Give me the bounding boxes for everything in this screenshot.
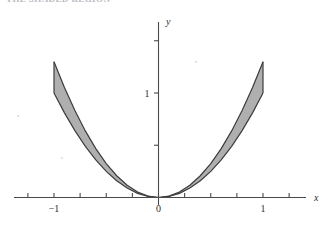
y-axis-ticks: [154, 41, 159, 146]
x-axis-tick-labels: −101: [49, 203, 266, 214]
y-axis-label: y: [165, 16, 171, 27]
y-axis-tick-label: 1: [145, 88, 150, 99]
x-axis-label: x: [313, 192, 319, 203]
x-axis-ticks: [28, 193, 289, 198]
x-axis-tick-label: 0: [156, 203, 161, 214]
y-axis-tick-labels: 1: [145, 88, 150, 99]
x-axis-tick-label: 1: [261, 203, 266, 214]
x-axis-tick-label: −1: [49, 203, 60, 214]
plot-canvas: −101 1 y x: [0, 0, 332, 230]
scan-speck: [195, 61, 197, 63]
axes: [14, 22, 306, 205]
math-plot-figure: −101 1 y x: [0, 0, 332, 230]
scan-speck: [17, 115, 19, 117]
scan-speck: [61, 157, 63, 159]
